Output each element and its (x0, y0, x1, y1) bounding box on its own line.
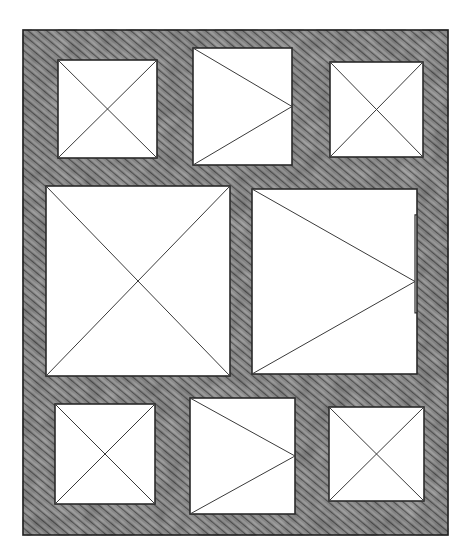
panel-top-left (58, 60, 157, 158)
wireframe-canvas (0, 0, 471, 555)
panel-middle-right (252, 189, 417, 374)
panel-top-right (330, 62, 423, 157)
panel-box (190, 398, 295, 514)
panel-bottom-left (55, 404, 155, 504)
panel-bottom-right (329, 407, 424, 501)
panel-middle-left (46, 186, 230, 376)
panel-bottom-center (190, 398, 295, 514)
panel-top-center (193, 48, 292, 165)
wireframe-sketch (0, 0, 471, 555)
panel-box (252, 189, 417, 374)
panel-box (193, 48, 292, 165)
